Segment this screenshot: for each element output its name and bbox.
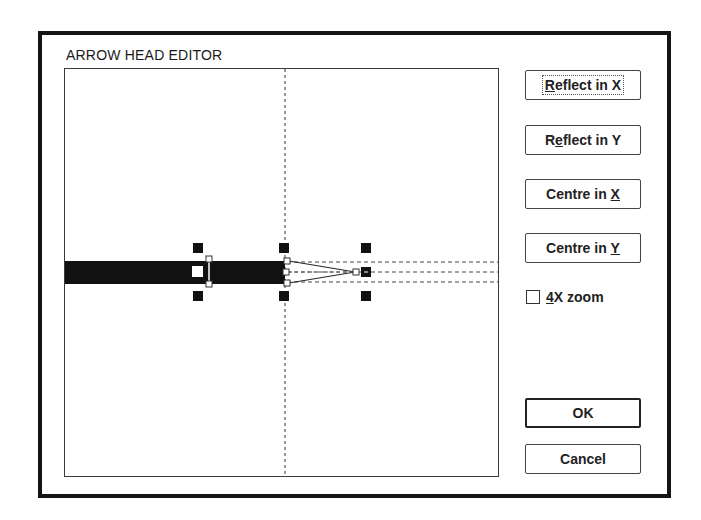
- shaft-handle-white: [192, 266, 203, 277]
- cancel-button[interactable]: Cancel: [525, 444, 641, 474]
- reflect-in-y-button[interactable]: Reflect in Y: [525, 125, 641, 155]
- selection-handle: [279, 291, 289, 301]
- dialog-title: ARROW HEAD EDITOR: [66, 47, 222, 63]
- arrow-editor-canvas[interactable]: [64, 68, 499, 477]
- tip-handle-small: [353, 269, 359, 275]
- handle-small: [206, 281, 212, 287]
- handle-small: [284, 280, 290, 286]
- arrow-drawing: [65, 69, 498, 476]
- ok-button[interactable]: OK: [525, 398, 641, 428]
- selection-handle: [193, 243, 203, 253]
- handle-small: [284, 258, 290, 264]
- 4x-zoom-checkbox[interactable]: 4X zoom: [526, 289, 604, 305]
- handle-small: [206, 256, 212, 262]
- selection-handle: [361, 291, 371, 301]
- checkbox-label: X zoom: [554, 289, 604, 305]
- handle-small: [283, 269, 289, 275]
- selection-handle: [279, 243, 289, 253]
- reflect-in-x-button[interactable]: Reflect in X: [525, 70, 641, 100]
- selection-handle: [361, 243, 371, 253]
- arrow-shaft: [65, 261, 285, 284]
- centre-in-y-button[interactable]: Centre in Y: [525, 233, 641, 263]
- centre-in-x-button[interactable]: Centre in X: [525, 179, 641, 209]
- checkbox-box[interactable]: [526, 290, 540, 304]
- selection-handle: [193, 291, 203, 301]
- focus-rectangle: Reflect in X: [542, 75, 624, 95]
